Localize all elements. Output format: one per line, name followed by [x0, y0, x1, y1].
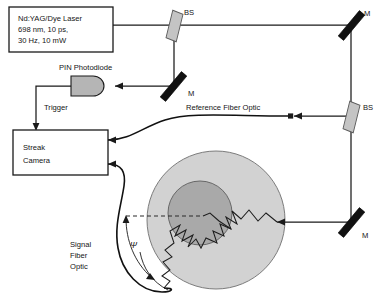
laser-line-1: Nd:YAG/Dye Laser — [18, 14, 82, 23]
beam-arrowhead-photodiode — [115, 83, 123, 90]
streak-camera-box[interactable] — [13, 130, 108, 175]
optical-tomography-diagram: BS M M BS M PIN Photodiode Trigger — [0, 0, 381, 306]
signal-fiber-label-1: Signal — [70, 240, 91, 249]
laser-line-3: 30 Hz, 10 mW — [18, 36, 67, 45]
beam-splitter-top-label: BS — [184, 8, 194, 17]
streak-camera-line-1: Streak — [23, 143, 45, 152]
pin-photodiode[interactable] — [71, 76, 104, 96]
signal-fiber-camera-arrowhead — [108, 161, 116, 168]
angle-psi-symbol: Ψ — [130, 240, 138, 250]
beam-splitter-right-label: BS — [363, 103, 373, 112]
beam-arrowhead-reference-fiber — [294, 113, 302, 120]
reference-fiber-camera-arrowhead — [108, 137, 116, 144]
signal-fiber-label-3: Optic — [70, 262, 88, 271]
mirror-bottom-right-label: M — [362, 231, 368, 240]
tissue-phantom — [147, 151, 285, 289]
reference-fiber-optic-cable — [108, 115, 288, 140]
beam-splitter-right-glass — [339, 101, 363, 133]
reference-fiber-coupler — [288, 113, 293, 118]
diagram-canvas: BS M M BS M PIN Photodiode Trigger — [0, 0, 381, 306]
mirror-mid-left-label: M — [188, 89, 194, 98]
beam-splitter-right[interactable] — [339, 101, 363, 133]
pin-photodiode-body — [71, 76, 104, 96]
streak-camera-line-2: Camera — [23, 156, 51, 165]
mirror-top-right-label: M — [364, 9, 370, 18]
reference-fiber-optic-label: Reference Fiber Optic — [186, 103, 260, 112]
signal-fiber-label-2: Fiber — [70, 251, 88, 260]
trigger-label: Trigger — [44, 103, 68, 112]
pin-photodiode-label: PIN Photodiode — [59, 63, 112, 72]
laser-line-2: 698 nm, 10 ps, — [18, 25, 68, 34]
